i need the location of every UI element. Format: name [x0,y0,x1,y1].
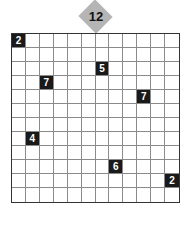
grid-cell[interactable] [26,90,40,104]
grid-cell[interactable] [82,174,96,188]
grid-cell[interactable] [96,174,110,188]
grid-cell[interactable] [151,48,165,62]
grid-cell[interactable] [96,34,110,48]
grid-cell[interactable] [68,146,82,160]
grid-cell[interactable] [123,76,137,90]
grid-cell[interactable] [165,62,179,76]
grid-cell[interactable] [26,76,40,90]
grid-cell[interactable] [109,76,123,90]
grid-cell[interactable] [12,146,26,160]
grid-cell[interactable] [151,160,165,174]
grid-cell[interactable] [12,62,26,76]
grid-cell[interactable] [109,188,123,202]
grid-cell[interactable] [96,132,110,146]
grid-cell[interactable] [54,104,68,118]
grid-cell[interactable] [82,48,96,62]
grid-cell[interactable] [40,34,54,48]
grid-cell[interactable] [165,146,179,160]
grid-cell[interactable] [26,174,40,188]
grid-cell[interactable] [165,160,179,174]
clue-cell[interactable]: 7 [137,90,151,104]
grid-cell[interactable] [26,34,40,48]
grid-cell[interactable] [68,160,82,174]
grid-cell[interactable] [54,62,68,76]
grid-cell[interactable] [12,132,26,146]
grid-cell[interactable] [68,62,82,76]
grid-cell[interactable] [54,76,68,90]
grid-cell[interactable] [123,118,137,132]
grid-cell[interactable] [151,146,165,160]
grid-cell[interactable] [26,118,40,132]
grid-cell[interactable] [109,174,123,188]
grid-cell[interactable] [54,90,68,104]
grid-cell[interactable] [54,174,68,188]
grid-cell[interactable] [151,34,165,48]
grid-cell[interactable] [26,48,40,62]
grid-cell[interactable] [137,104,151,118]
grid-cell[interactable] [54,118,68,132]
grid-cell[interactable] [12,174,26,188]
grid-cell[interactable] [123,146,137,160]
grid-cell[interactable] [40,188,54,202]
grid-cell[interactable] [12,118,26,132]
grid-cell[interactable] [151,174,165,188]
grid-cell[interactable] [109,48,123,62]
grid-cell[interactable] [82,76,96,90]
grid-cell[interactable] [26,146,40,160]
grid-cell[interactable] [82,34,96,48]
grid-cell[interactable] [165,76,179,90]
clue-cell[interactable]: 2 [12,34,26,48]
grid-cell[interactable] [68,188,82,202]
grid-cell[interactable] [123,188,137,202]
grid-cell[interactable] [123,104,137,118]
grid-cell[interactable] [137,146,151,160]
grid-cell[interactable] [165,90,179,104]
grid-cell[interactable] [40,62,54,76]
grid-cell[interactable] [26,160,40,174]
grid-cell[interactable] [96,146,110,160]
grid-cell[interactable] [123,132,137,146]
grid-cell[interactable] [54,146,68,160]
grid-cell[interactable] [26,62,40,76]
grid-cell[interactable] [123,48,137,62]
grid-cell[interactable] [165,118,179,132]
grid-cell[interactable] [137,62,151,76]
grid-cell[interactable] [96,76,110,90]
grid-cell[interactable] [165,104,179,118]
grid-cell[interactable] [109,132,123,146]
grid-cell[interactable] [68,90,82,104]
grid-cell[interactable] [151,118,165,132]
grid-cell[interactable] [109,118,123,132]
grid-cell[interactable] [109,34,123,48]
grid-cell[interactable] [68,76,82,90]
grid-cell[interactable] [96,90,110,104]
grid-cell[interactable] [137,76,151,90]
grid-cell[interactable] [82,160,96,174]
grid-cell[interactable] [40,48,54,62]
grid-cell[interactable] [68,132,82,146]
grid-cell[interactable] [54,188,68,202]
grid-cell[interactable] [165,188,179,202]
grid-cell[interactable] [96,48,110,62]
grid-cell[interactable] [165,132,179,146]
grid-cell[interactable] [82,132,96,146]
grid-cell[interactable] [137,118,151,132]
grid-cell[interactable] [12,76,26,90]
grid-cell[interactable] [12,48,26,62]
grid-cell[interactable] [123,160,137,174]
grid-cell[interactable] [68,118,82,132]
grid-cell[interactable] [26,104,40,118]
grid-cell[interactable] [82,118,96,132]
grid-cell[interactable] [96,118,110,132]
grid-cell[interactable] [54,34,68,48]
grid-cell[interactable] [137,132,151,146]
grid-cell[interactable] [151,104,165,118]
grid-cell[interactable] [151,90,165,104]
clue-cell[interactable]: 4 [26,132,40,146]
grid-cell[interactable] [54,48,68,62]
grid-cell[interactable] [109,146,123,160]
grid-cell[interactable] [137,48,151,62]
grid-cell[interactable] [165,34,179,48]
grid-cell[interactable] [151,62,165,76]
grid-cell[interactable] [96,104,110,118]
